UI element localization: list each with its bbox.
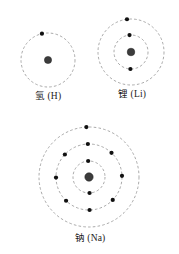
electron — [54, 175, 58, 179]
electron — [87, 191, 91, 195]
electron — [63, 152, 67, 156]
electron — [127, 33, 131, 37]
atom-label-sodium: 钠 (Na) — [24, 232, 156, 244]
atomic-structure-figure: 氢 (H) 锂 (Li) 钠 (Na) — [0, 0, 179, 254]
electron — [84, 125, 88, 129]
electron — [86, 159, 90, 163]
electron — [109, 151, 113, 155]
atom-diagram-hydrogen: 氢 (H) — [0, 14, 96, 106]
electron — [125, 17, 129, 21]
electron — [87, 208, 91, 212]
electron — [120, 174, 124, 178]
atom-label-lithium: 锂 (Li) — [88, 88, 176, 100]
electron — [64, 199, 68, 203]
atom-diagram-sodium: 钠 (Na) — [24, 118, 156, 252]
electron — [40, 32, 44, 36]
electron — [111, 198, 115, 202]
atom-label-hydrogen: 氢 (H) — [0, 90, 96, 102]
nucleus — [44, 56, 51, 63]
electron — [86, 142, 90, 146]
electron — [128, 67, 132, 71]
nucleus — [127, 48, 135, 56]
nucleus — [85, 173, 93, 181]
atom-diagram-lithium: 锂 (Li) — [88, 8, 176, 106]
